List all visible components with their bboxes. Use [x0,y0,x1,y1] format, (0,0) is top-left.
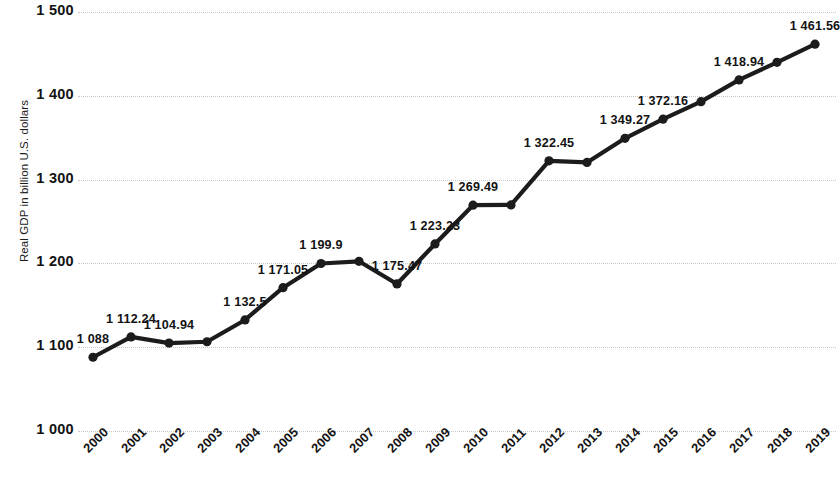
series-polyline [93,44,815,357]
data-label-2002: 1 104.94 [144,318,195,332]
data-point-2008[interactable] [392,279,401,288]
data-point-2001[interactable] [126,332,135,341]
data-label-2012: 1 322.45 [524,136,575,150]
data-point-2011[interactable] [506,200,515,209]
y-axis-tick-1000: 1 000 [18,421,74,437]
data-point-2007[interactable] [354,257,363,266]
data-point-2012[interactable] [544,156,553,165]
data-label-2010: 1 269.49 [448,180,499,194]
data-label-2004: 1 132.5 [223,295,266,309]
data-label-2014: 1 349.27 [600,113,651,127]
data-point-2004[interactable] [240,315,249,324]
y-axis-tick-1200: 1 200 [18,253,74,269]
data-label-2009: 1 223.23 [410,219,461,233]
data-point-2017[interactable] [734,75,743,84]
data-point-2018[interactable] [772,58,781,67]
y-axis-tick-1500: 1 500 [18,2,74,18]
data-point-2000[interactable] [88,353,97,362]
series-markers [88,40,819,362]
data-label-2005: 1 171.05 [258,263,309,277]
y-axis-tick-1300: 1 300 [18,170,74,186]
data-point-2003[interactable] [202,337,211,346]
data-point-2019[interactable] [810,40,819,49]
data-point-2010[interactable] [468,201,477,210]
plot-area: 1 0881 112.241 104.941 132.51 171.051 19… [78,0,836,437]
data-label-2015: 1 372.16 [638,94,689,108]
data-label-2019: 1 461.56 [790,19,840,33]
data-point-2014[interactable] [620,134,629,143]
data-point-2002[interactable] [164,338,173,347]
y-axis-tick-1400: 1 400 [18,86,74,102]
data-point-2013[interactable] [582,158,591,167]
data-point-2006[interactable] [316,259,325,268]
data-point-2015[interactable] [658,115,667,124]
x-axis-tick-labels: 2000200120022003200420052006200720082009… [78,437,836,479]
data-label-2006: 1 199.9 [299,238,342,252]
data-point-2009[interactable] [430,239,439,248]
data-label-2000: 1 088 [77,332,110,346]
data-label-2017: 1 418.94 [714,55,765,69]
data-label-2008: 1 175.47 [372,259,423,273]
data-point-2016[interactable] [696,97,705,106]
y-axis-tick-1100: 1 100 [18,337,74,353]
data-point-2005[interactable] [278,283,287,292]
